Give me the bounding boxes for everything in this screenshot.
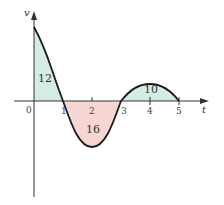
y-axis-arrow-icon bbox=[31, 11, 37, 20]
tick-label-1: 1 bbox=[61, 106, 67, 116]
velocity-chart: v t 0 1 2 3 4 5 12 16 10 bbox=[0, 0, 224, 205]
tick-label-0: 0 bbox=[26, 105, 32, 115]
tick-label-5: 5 bbox=[176, 106, 182, 116]
area-label-16: 16 bbox=[86, 123, 100, 136]
tick-label-3: 3 bbox=[121, 106, 127, 116]
tick-label-2: 2 bbox=[89, 106, 95, 116]
area-label-10: 10 bbox=[144, 83, 158, 96]
area-label-12: 12 bbox=[38, 72, 52, 85]
tick-label-4: 4 bbox=[147, 106, 153, 116]
x-axis-label: t bbox=[202, 104, 207, 115]
y-axis-label: v bbox=[24, 7, 30, 18]
